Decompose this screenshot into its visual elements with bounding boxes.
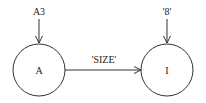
node-i-label: I — [165, 65, 168, 76]
node-a: A3 A — [13, 6, 65, 96]
node-i-input-label: '8' — [163, 6, 172, 17]
edge-a-to-i: 'SIZE' — [65, 54, 141, 70]
node-a-label: A — [35, 65, 43, 76]
diagram-canvas: A3 A 'SIZE' '8' I — [0, 0, 206, 103]
node-i: '8' I — [141, 6, 193, 96]
edge-a-to-i-label: 'SIZE' — [92, 54, 117, 65]
node-a-input-label: A3 — [33, 6, 45, 17]
